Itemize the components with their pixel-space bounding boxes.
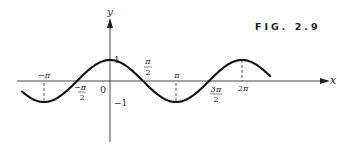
label-origin: 0 (100, 85, 106, 95)
label-pi-over-2: π 2 (144, 57, 152, 77)
label-pi-over-2-num: π (144, 57, 151, 66)
label-y-one: 1 (114, 55, 120, 65)
label-neg-pi-over-2: −π 2 (74, 83, 87, 102)
label-neg-pi-over-2-num: −π (74, 83, 87, 92)
label-neg-pi-over-2-den: 2 (79, 93, 84, 102)
label-neg-pi: −π (38, 71, 51, 80)
label-pi-over-2-den: 2 (145, 68, 150, 77)
y-axis-label: y (106, 6, 113, 17)
cosine-graph: x y 1 0 −1 −π −π 2 π 2 π 3π 2 2π FIG. 2.… (0, 0, 337, 149)
x-axis-arrow-icon (320, 78, 330, 84)
label-two-pi: 2π (237, 84, 249, 93)
y-axis-arrow-icon (107, 18, 113, 28)
label-three-pi-over-2: 3π 2 (210, 85, 222, 104)
label-y-neg-one: −1 (114, 98, 127, 108)
label-three-pi-over-2-den: 2 (213, 95, 218, 104)
figure-caption: FIG. 2.9 (255, 21, 321, 32)
label-three-pi-over-2-num: 3π (211, 85, 222, 94)
x-axis-label: x (330, 74, 337, 87)
label-pi: π (173, 71, 180, 80)
